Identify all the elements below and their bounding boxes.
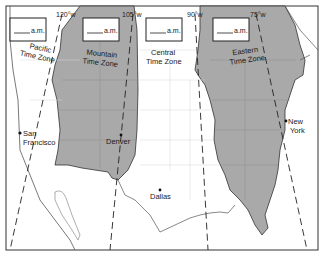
meridian-label-105: 105°w (122, 11, 142, 18)
time-box-eastern[interactable]: a.m. (213, 18, 249, 41)
svg-text:a.m.: a.m. (104, 27, 118, 34)
svg-text:Dallas: Dallas (150, 192, 171, 201)
svg-text:a.m.: a.m. (31, 27, 45, 34)
svg-text:a.m.: a.m. (234, 27, 248, 34)
meridian-label-75: 75°w (250, 11, 267, 18)
svg-text:Denver: Denver (106, 137, 131, 146)
svg-text:Francisco: Francisco (23, 138, 56, 147)
svg-text:a.m.: a.m. (167, 27, 181, 34)
meridian-label-90: 90°w (187, 11, 204, 18)
svg-text:San: San (23, 129, 36, 138)
svg-text:New: New (288, 117, 304, 126)
time-box-pacific[interactable]: a.m. (10, 18, 46, 41)
time-box-central[interactable]: a.m. (146, 18, 182, 41)
svg-text:Central: Central (151, 48, 176, 57)
svg-text:Time Zone: Time Zone (146, 57, 182, 66)
meridian-label-120: 120°w (56, 11, 76, 18)
svg-text:York: York (290, 126, 305, 135)
zone-label-mountain: Mountain Time Zone (82, 47, 119, 69)
time-box-mountain[interactable]: a.m. (83, 18, 119, 41)
time-zone-map: 120°w 105°w 90°w 75°w a.m. a.m. a.m. a.m… (0, 0, 324, 254)
